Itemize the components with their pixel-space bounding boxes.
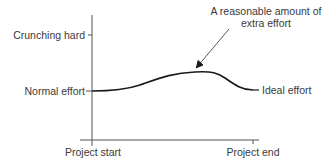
annotation-arrow-icon bbox=[197, 29, 229, 67]
x-label-project-end: Project end bbox=[220, 146, 286, 158]
y-label-crunching-hard: Crunching hard bbox=[13, 29, 85, 41]
annotation-extra-effort: A reasonable amount of extra effort bbox=[206, 5, 326, 29]
label-ideal-effort: Ideal effort bbox=[262, 84, 311, 96]
y-label-normal-effort: Normal effort bbox=[25, 85, 86, 97]
x-label-project-start: Project start bbox=[58, 146, 128, 158]
effort-curve bbox=[92, 72, 253, 91]
